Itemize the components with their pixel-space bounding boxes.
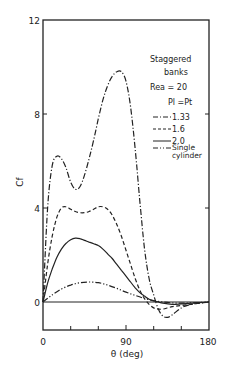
y-axis-label: Cf: [15, 176, 25, 186]
series-line-1-33: [43, 71, 209, 318]
legend-title-line1: Staggered: [150, 55, 191, 64]
x-tick-180: 180: [199, 337, 216, 347]
series-group: [43, 71, 209, 318]
series-line-2-0: [43, 238, 209, 304]
legend: Staggered banks Rea = 20 Pl =Pt 1.33 1.6…: [150, 55, 203, 160]
chart: 12 8 4 0 0 90 180 θ (deg) Cf Staggered b…: [0, 0, 225, 380]
legend-reynolds: Rea = 20: [150, 83, 187, 92]
legend-title-line2: banks: [164, 68, 188, 77]
y-tick-8: 8: [34, 110, 40, 120]
legend-pitch-ratio: Pl =Pt: [168, 98, 192, 107]
series-line-1-6: [43, 207, 209, 310]
legend-label-1-6: 1.6: [172, 125, 185, 134]
y-tick-0: 0: [34, 298, 40, 308]
x-axis-label: θ (deg): [111, 349, 143, 359]
x-ticks: [71, 325, 182, 330]
legend-label-1-33: 1.33: [172, 113, 190, 122]
x-tick-0: 0: [40, 337, 46, 347]
y-tick-4: 4: [34, 204, 40, 214]
legend-label-cylinder: cylinder: [172, 151, 203, 160]
y-tick-12: 12: [29, 16, 40, 26]
series-line-single-cylinder: [43, 282, 209, 303]
x-tick-90: 90: [120, 337, 132, 347]
